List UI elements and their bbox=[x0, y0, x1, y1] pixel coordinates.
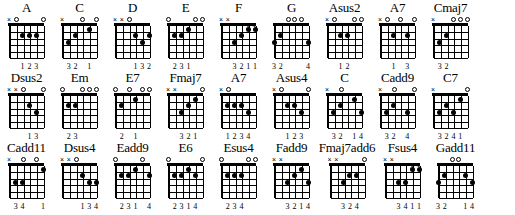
fret-line bbox=[116, 185, 150, 186]
finger-dot bbox=[179, 110, 184, 115]
fret-line bbox=[328, 52, 362, 53]
finger-number: 2 bbox=[441, 201, 448, 212]
fret-line bbox=[222, 109, 256, 110]
chord-diagram[interactable]: Fmaj7321 bbox=[159, 70, 212, 142]
string-line bbox=[355, 26, 356, 58]
string-line bbox=[256, 166, 257, 198]
fretboard-grid bbox=[433, 93, 467, 128]
string-line bbox=[434, 96, 435, 128]
chord-diagram[interactable]: Eadd92314 bbox=[106, 140, 159, 212]
string-markers bbox=[59, 86, 100, 93]
finger-dot bbox=[239, 33, 244, 38]
fretboard-diagram bbox=[218, 86, 259, 130]
string-line bbox=[30, 26, 31, 58]
muted-string-icon bbox=[6, 86, 12, 93]
fretboard-diagram bbox=[327, 156, 368, 200]
chord-name: A7 bbox=[231, 70, 247, 86]
chord-diagram[interactable]: A123 bbox=[0, 0, 53, 72]
fret-line bbox=[381, 39, 415, 40]
chord-diagram[interactable]: Dsus4134 bbox=[53, 140, 106, 212]
fingering-numbers: 234 bbox=[218, 201, 259, 212]
chord-diagram[interactable]: Asus4123 bbox=[265, 70, 318, 142]
chord-diagram[interactable]: Asus212 bbox=[318, 0, 371, 72]
string-line bbox=[393, 166, 394, 198]
fretboard-grid bbox=[274, 23, 308, 58]
chord-diagram[interactable]: Em23 bbox=[53, 70, 106, 142]
fret-line bbox=[381, 32, 415, 33]
fret-line bbox=[10, 39, 44, 40]
chord-diagram[interactable]: C73241 bbox=[424, 70, 477, 142]
string-line bbox=[328, 96, 329, 128]
grid-lines bbox=[330, 166, 364, 198]
chord-diagram[interactable]: Dsus213 bbox=[0, 70, 53, 142]
open-string-icon bbox=[139, 156, 145, 163]
string-line bbox=[17, 96, 18, 128]
fret-line bbox=[169, 115, 203, 116]
chord-name: Cadd9 bbox=[381, 70, 414, 86]
fret-line bbox=[222, 58, 256, 59]
string-line bbox=[169, 26, 170, 58]
fret-line bbox=[63, 45, 97, 46]
chord-diagram[interactable]: Fadd93214 bbox=[265, 140, 318, 212]
fret-line bbox=[10, 128, 44, 129]
chord-name: Fmaj7 bbox=[169, 70, 201, 86]
fret-line bbox=[63, 58, 97, 59]
string-markers bbox=[6, 156, 47, 163]
chord-diagram[interactable]: A713 bbox=[371, 0, 424, 72]
fret-line bbox=[439, 179, 473, 180]
string-line bbox=[24, 26, 25, 58]
open-string-icon bbox=[112, 156, 118, 163]
finger-dot bbox=[299, 167, 304, 172]
finger-dot bbox=[403, 180, 408, 185]
fret-line bbox=[434, 58, 468, 59]
finger-dot bbox=[458, 97, 463, 102]
fret-line bbox=[63, 128, 97, 129]
string-markers bbox=[271, 86, 312, 93]
open-string-icon bbox=[331, 16, 337, 23]
finger-dot bbox=[331, 110, 336, 115]
finger-number: 4 bbox=[93, 201, 100, 212]
muted-string-icon bbox=[59, 156, 65, 163]
string-line bbox=[282, 26, 283, 58]
chord-diagram[interactable]: D132 bbox=[106, 0, 159, 72]
string-line bbox=[309, 96, 310, 128]
chord-diagram[interactable]: G324 bbox=[265, 0, 318, 72]
chord-diagram[interactable]: F3211 bbox=[212, 0, 265, 72]
fret-line bbox=[439, 192, 473, 193]
chord-diagram[interactable]: Cadd11341 bbox=[0, 140, 53, 212]
finger-number: 4 bbox=[353, 201, 360, 212]
chord-name: Fsus4 bbox=[388, 140, 417, 156]
chord-diagram[interactable]: C3214 bbox=[318, 70, 371, 142]
finger-dot bbox=[193, 173, 198, 178]
open-string-icon bbox=[449, 156, 455, 163]
fret-line bbox=[386, 192, 420, 193]
chord-diagram[interactable]: A71234 bbox=[212, 70, 265, 142]
chord-diagram[interactable]: Cadd9324 bbox=[371, 70, 424, 142]
finger-dot bbox=[239, 103, 244, 108]
muted-string-icon bbox=[172, 86, 178, 93]
string-line bbox=[275, 96, 276, 128]
chord-diagram[interactable]: Gadd113214 bbox=[429, 140, 482, 212]
chord-diagram[interactable]: Fsus43411 bbox=[376, 140, 429, 212]
muted-string-icon bbox=[278, 156, 284, 163]
fret-line bbox=[328, 39, 362, 40]
chord-diagram[interactable]: E62314 bbox=[159, 140, 212, 212]
chord-name: Gadd11 bbox=[436, 140, 475, 156]
muted-string-icon bbox=[59, 16, 65, 23]
open-string-icon bbox=[358, 16, 364, 23]
string-line bbox=[302, 26, 303, 58]
string-line bbox=[468, 26, 469, 58]
fret-line bbox=[222, 185, 256, 186]
chord-diagram[interactable]: E231 bbox=[159, 0, 212, 72]
fret-line bbox=[10, 172, 44, 173]
chord-diagram[interactable]: Esus4234 bbox=[212, 140, 265, 212]
chord-diagram[interactable]: C321 bbox=[53, 0, 106, 72]
string-line bbox=[236, 96, 237, 128]
string-markers bbox=[327, 156, 368, 163]
chord-diagram[interactable]: E721 bbox=[106, 70, 159, 142]
chord-diagram[interactable]: Cmaj732 bbox=[424, 0, 477, 72]
chord-row: Cadd11341Dsus4134Eadd92314E62314Esus4234… bbox=[0, 140, 515, 210]
string-line bbox=[63, 96, 64, 128]
chord-diagram[interactable]: Fmaj7add6324 bbox=[318, 140, 376, 212]
fretboard-diagram bbox=[59, 16, 100, 60]
